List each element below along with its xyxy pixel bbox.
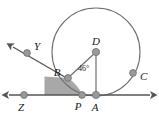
label-p: P	[74, 100, 82, 112]
point-c	[130, 70, 137, 77]
geometry-canvas: Y Z B P A D C 46°	[0, 0, 159, 120]
point-y	[24, 50, 31, 57]
point-z	[21, 92, 28, 99]
label-z: Z	[18, 101, 25, 113]
point-b	[65, 75, 72, 82]
label-d: D	[91, 35, 100, 47]
point-p	[79, 92, 86, 99]
ray-yb-line	[13, 47, 70, 80]
angle-label-bda: 46°	[78, 64, 89, 73]
geometry-figure: Y Z B P A D C 46°	[0, 0, 159, 120]
label-y: Y	[34, 40, 42, 52]
label-b: B	[54, 66, 61, 78]
label-c: C	[140, 70, 148, 82]
point-d	[92, 48, 99, 55]
point-a	[92, 91, 99, 98]
label-a: A	[91, 101, 99, 113]
